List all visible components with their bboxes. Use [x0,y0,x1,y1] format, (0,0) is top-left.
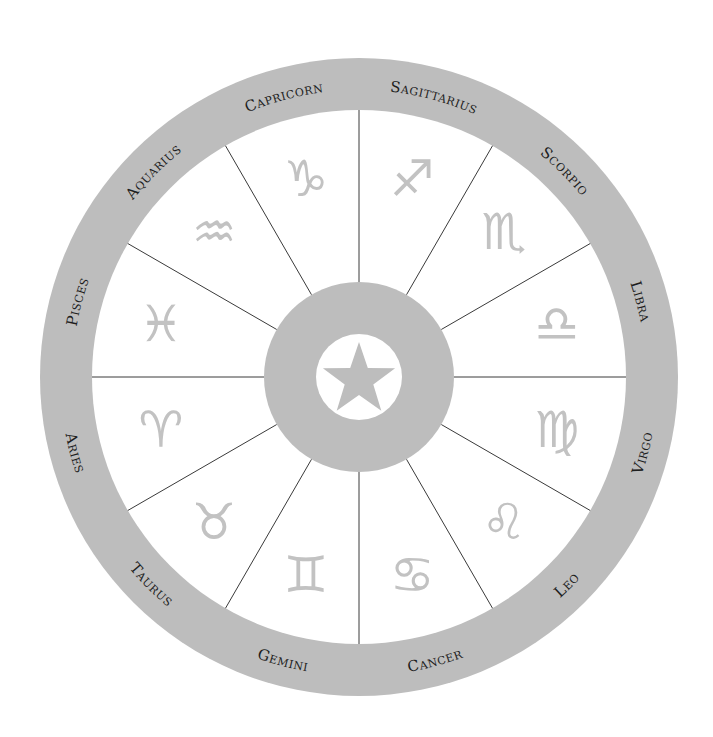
capricorn-icon: ♑ [284,150,329,208]
aquarius-icon: ♒ [192,203,237,261]
aries-icon: ♈ [139,401,184,459]
scorpio-icon: ♏ [482,203,527,261]
leo-icon: ♌ [482,493,527,551]
virgo-icon: ♍ [535,401,580,459]
sagittarius-icon: ♐ [390,150,435,208]
zodiac-wheel: ♍♌♋♊♉♈♓♒♑♐♏♎ VirgoLeoCancerGeminiTaurusA… [0,0,713,737]
cancer-icon: ♋ [390,546,435,604]
gemini-icon: ♊ [284,546,329,604]
taurus-icon: ♉ [192,493,237,551]
libra-icon: ♎ [535,295,580,353]
pisces-icon: ♓ [139,295,184,353]
